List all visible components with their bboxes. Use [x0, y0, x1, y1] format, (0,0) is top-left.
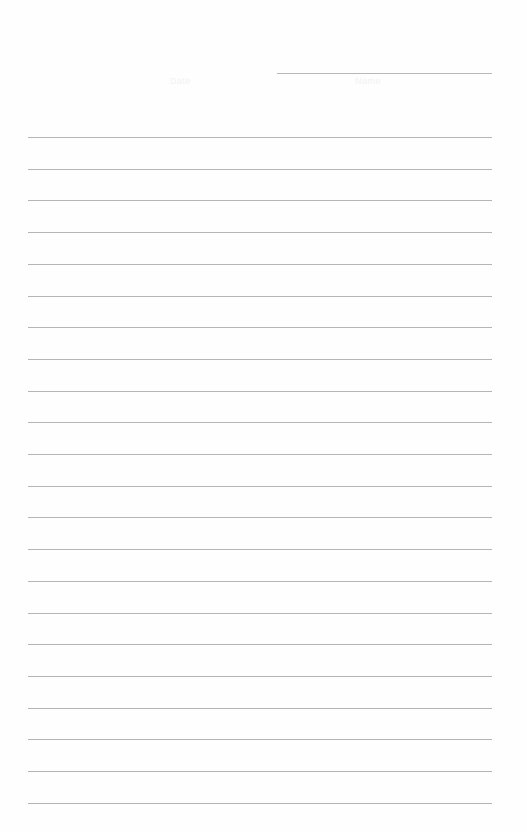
lined-paper-page: Date Name [0, 0, 527, 832]
ruled-line [28, 359, 492, 360]
ruled-line [28, 200, 492, 201]
ruled-line [28, 644, 492, 645]
ruled-line [28, 708, 492, 709]
ruled-line [28, 422, 492, 423]
ruled-line [28, 549, 492, 550]
ruled-line [28, 517, 492, 518]
ruled-line [28, 613, 492, 614]
ruled-line [28, 232, 492, 233]
ruled-line [28, 264, 492, 265]
ruled-line [28, 137, 492, 138]
ruled-line [28, 771, 492, 772]
ruled-line [28, 486, 492, 487]
ruled-line [28, 391, 492, 392]
ruled-line [28, 739, 492, 740]
ruled-line [28, 169, 492, 170]
ruled-line [28, 327, 492, 328]
ruled-line [28, 454, 492, 455]
ruled-line [28, 803, 492, 804]
ruled-line [28, 296, 492, 297]
ruled-lines-container [0, 0, 527, 832]
ruled-line [28, 581, 492, 582]
ruled-line [28, 676, 492, 677]
